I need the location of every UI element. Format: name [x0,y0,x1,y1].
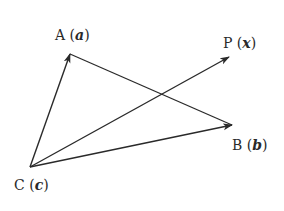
segment-cp [30,57,229,167]
label-b-open: ( [242,137,252,153]
label-a-close: ) [84,27,89,43]
segment-ab [70,54,232,125]
label-b-close: ) [262,137,267,153]
label-point-c: C (c) [14,177,49,193]
segment-cb [30,125,232,167]
label-b-vector: b [252,137,262,153]
label-p-letter: P [223,35,232,51]
label-point-p: P (x) [223,35,256,51]
label-c-close: ) [43,177,48,193]
label-c-letter: C [14,177,25,193]
label-point-b: B (b) [232,137,267,153]
label-point-a: A (a) [54,27,90,43]
segment-ca [30,54,70,167]
vector-diagram: A (a) P (x) B (b) C (c) [0,0,284,211]
label-b-letter: B [232,137,242,153]
label-p-open: ( [232,35,242,51]
label-c-open: ( [25,177,35,193]
label-a-vector: a [75,27,84,43]
label-p-close: ) [251,35,256,51]
label-a-open: ( [65,27,75,43]
